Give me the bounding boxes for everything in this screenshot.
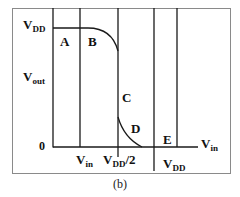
region-label-e: E: [163, 133, 172, 146]
region-label-a: A: [60, 35, 69, 48]
y-tick-vdd: VDD: [23, 18, 45, 31]
x-tick-vin: Vin: [76, 153, 93, 166]
x-axis-label: Vin: [201, 137, 218, 150]
origin-label: 0: [39, 140, 45, 152]
region-label-d: D: [131, 122, 140, 135]
figure-caption: (b): [0, 177, 240, 192]
y-axis-label: Vout: [23, 70, 45, 83]
x-tick-vdd-half: VDD/2: [103, 153, 136, 166]
x-tick-vdd: VDD: [163, 157, 185, 170]
region-label-c: C: [122, 91, 131, 104]
region-label-b: B: [88, 35, 97, 48]
